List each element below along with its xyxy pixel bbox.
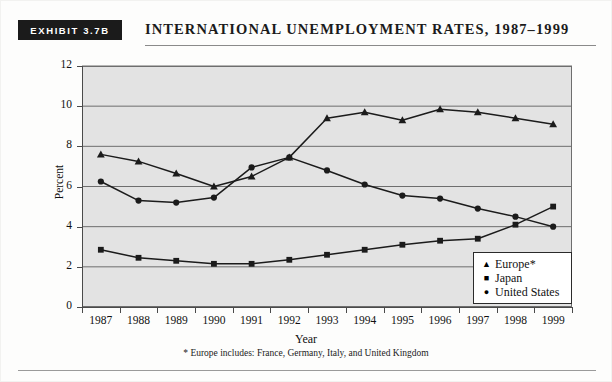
y-tick-label: 12 xyxy=(42,58,72,70)
data-point-square xyxy=(324,252,330,258)
y-tick-mark xyxy=(77,66,82,67)
y-tick-mark xyxy=(77,146,82,147)
y-tick-label: 2 xyxy=(42,259,72,271)
legend-marker-icon: ■ xyxy=(480,274,493,283)
series-united-states xyxy=(98,154,557,229)
data-point-circle xyxy=(550,224,556,230)
data-point-circle xyxy=(211,194,217,200)
exhibit-header: EXHIBIT 3.7B INTERNATIONAL UNEMPLOYMENT … xyxy=(18,20,596,50)
data-point-square xyxy=(173,258,179,264)
data-point-square xyxy=(98,247,104,253)
legend-label: United States xyxy=(495,285,559,300)
data-point-circle xyxy=(135,197,141,203)
legend-marker-icon: ▲ xyxy=(480,260,493,269)
header-divider xyxy=(145,45,596,46)
y-tick-label: 0 xyxy=(42,299,72,311)
y-tick-mark xyxy=(77,106,82,107)
chart-footnote: * Europe includes: France, Germany, Ital… xyxy=(0,348,612,358)
x-tick-mark xyxy=(346,308,347,313)
data-point-circle xyxy=(475,205,481,211)
data-point-circle xyxy=(249,164,255,170)
legend-item-unitedstates: ●United States xyxy=(480,285,566,299)
y-tick-label: 6 xyxy=(42,179,72,191)
legend-marker-icon: ● xyxy=(480,288,493,297)
data-point-circle xyxy=(286,154,292,160)
exhibit-title: INTERNATIONAL UNEMPLOYMENT RATES, 1987–1… xyxy=(145,21,569,38)
page-bottom-divider xyxy=(18,370,596,371)
data-point-circle xyxy=(98,178,104,184)
x-tick-mark xyxy=(384,308,385,313)
y-tick-mark xyxy=(77,227,82,228)
data-point-square xyxy=(211,261,217,267)
y-tick-mark xyxy=(77,267,82,268)
data-point-square xyxy=(249,261,255,267)
y-tick-label: 4 xyxy=(42,219,72,231)
data-point-triangle xyxy=(361,108,369,115)
x-tick-mark xyxy=(195,308,196,313)
chart-legend: ▲Europe*■Japan●United States xyxy=(473,252,572,304)
x-tick-mark xyxy=(120,308,121,313)
x-tick-label: 1999 xyxy=(531,314,575,326)
data-point-square xyxy=(475,236,481,242)
data-point-circle xyxy=(362,181,368,187)
data-point-square xyxy=(362,247,368,253)
legend-item-europe: ▲Europe* xyxy=(480,257,566,271)
data-point-triangle xyxy=(248,173,256,180)
data-point-square xyxy=(399,242,405,248)
series-europe- xyxy=(97,105,557,189)
data-point-circle xyxy=(324,167,330,173)
y-tick-mark xyxy=(77,187,82,188)
data-point-circle xyxy=(173,199,179,205)
x-tick-mark xyxy=(459,308,460,313)
legend-label: Europe* xyxy=(495,257,536,272)
x-tick-mark xyxy=(308,308,309,313)
x-axis-title: Year xyxy=(0,332,612,347)
data-point-triangle xyxy=(97,150,105,157)
x-tick-mark xyxy=(82,308,83,313)
data-point-circle xyxy=(437,195,443,201)
x-tick-mark xyxy=(157,308,158,313)
y-axis-line xyxy=(82,66,83,308)
data-point-square xyxy=(550,204,556,210)
y-tick-label: 8 xyxy=(42,138,72,150)
data-point-square xyxy=(513,222,519,228)
x-tick-mark xyxy=(270,308,271,313)
legend-label: Japan xyxy=(495,271,522,286)
chart-container: Percent 024681012 1987198819891990199119… xyxy=(0,58,612,326)
exhibit-number-badge: EXHIBIT 3.7B xyxy=(18,20,122,40)
x-tick-mark xyxy=(572,308,573,313)
y-tick-label: 10 xyxy=(42,98,72,110)
data-point-circle xyxy=(399,192,405,198)
data-point-square xyxy=(136,255,142,261)
data-point-square xyxy=(437,238,443,244)
x-tick-mark xyxy=(421,308,422,313)
x-axis-line xyxy=(82,307,573,308)
data-point-circle xyxy=(512,214,518,220)
x-tick-mark xyxy=(233,308,234,313)
legend-item-japan: ■Japan xyxy=(480,271,566,285)
data-point-square xyxy=(286,257,292,263)
x-tick-mark xyxy=(534,308,535,313)
x-tick-mark xyxy=(497,308,498,313)
exhibit-page: EXHIBIT 3.7B INTERNATIONAL UNEMPLOYMENT … xyxy=(0,0,612,382)
